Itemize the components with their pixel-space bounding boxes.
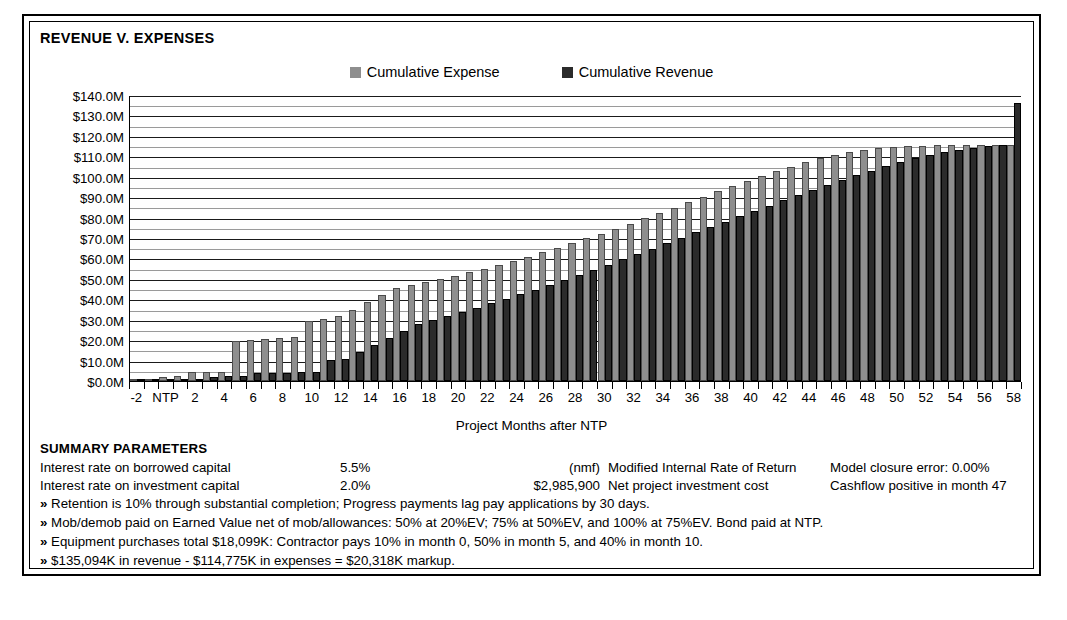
bar-cumulative-revenue[interactable] (181, 379, 188, 381)
bar-cumulative-revenue[interactable] (619, 259, 626, 381)
bar-group[interactable] (378, 96, 393, 381)
bar-cumulative-revenue[interactable] (210, 377, 217, 381)
bar-group[interactable] (364, 96, 379, 381)
bar-cumulative-expense[interactable] (393, 288, 400, 381)
bar-cumulative-expense[interactable] (437, 279, 444, 381)
bar-cumulative-revenue[interactable] (853, 175, 860, 381)
bar-cumulative-expense[interactable] (539, 252, 546, 381)
bar-cumulative-revenue[interactable] (473, 308, 480, 382)
bar-cumulative-revenue[interactable] (546, 285, 553, 381)
bar-cumulative-expense[interactable] (422, 282, 429, 381)
bar-group[interactable] (247, 96, 262, 381)
bar-cumulative-revenue[interactable] (167, 379, 174, 381)
bar-cumulative-expense[interactable] (232, 341, 239, 381)
bar-cumulative-expense[interactable] (554, 248, 561, 381)
bar-group[interactable] (320, 96, 335, 381)
bar-cumulative-revenue[interactable] (356, 352, 363, 381)
bar-cumulative-expense[interactable] (904, 146, 911, 381)
bar-cumulative-expense[interactable] (481, 269, 488, 381)
bar-cumulative-expense[interactable] (846, 152, 853, 381)
bar-group[interactable] (890, 96, 905, 381)
bar-cumulative-revenue[interactable] (663, 243, 670, 381)
bar-group[interactable] (656, 96, 671, 381)
bar-cumulative-revenue[interactable] (561, 280, 568, 381)
bar-group[interactable] (598, 96, 613, 381)
bar-cumulative-expense[interactable] (568, 243, 575, 381)
bar-cumulative-expense[interactable] (524, 257, 531, 381)
bar-cumulative-expense[interactable] (291, 337, 298, 381)
bar-group[interactable] (276, 96, 291, 381)
bar-group[interactable] (335, 96, 350, 381)
bar-cumulative-revenue[interactable] (488, 303, 495, 381)
bar-group[interactable] (992, 96, 1007, 381)
bar-group[interactable] (524, 96, 539, 381)
bar-cumulative-revenue[interactable] (137, 379, 144, 381)
bar-cumulative-expense[interactable] (598, 234, 605, 381)
bar-cumulative-revenue[interactable] (342, 359, 349, 381)
bar-cumulative-revenue[interactable] (941, 152, 948, 381)
bar-group[interactable] (641, 96, 656, 381)
bar-cumulative-expense[interactable] (583, 238, 590, 381)
bar-group[interactable] (860, 96, 875, 381)
bar-group[interactable] (934, 96, 949, 381)
bar-cumulative-revenue[interactable] (532, 290, 539, 381)
bar-group[interactable] (495, 96, 510, 381)
bar-group[interactable] (948, 96, 963, 381)
bar-cumulative-revenue[interactable] (649, 249, 656, 381)
bar-cumulative-expense[interactable] (159, 377, 166, 381)
bar-cumulative-expense[interactable] (451, 276, 458, 381)
bar-group[interactable] (466, 96, 481, 381)
bar-cumulative-revenue[interactable] (313, 372, 320, 381)
bar-group[interactable] (408, 96, 423, 381)
bar-cumulative-expense[interactable] (349, 310, 356, 381)
bar-cumulative-expense[interactable] (817, 158, 824, 381)
bar-cumulative-revenue[interactable] (225, 376, 232, 381)
bar-cumulative-revenue[interactable] (298, 372, 305, 381)
bar-cumulative-expense[interactable] (130, 379, 137, 381)
bar-cumulative-expense[interactable] (963, 145, 970, 381)
bar-cumulative-revenue[interactable] (240, 376, 247, 381)
bar-cumulative-expense[interactable] (744, 181, 751, 381)
bar-cumulative-revenue[interactable] (196, 379, 203, 381)
bar-group[interactable] (612, 96, 627, 381)
bar-cumulative-expense[interactable] (378, 295, 385, 381)
bar-cumulative-revenue[interactable] (152, 379, 159, 381)
bar-group[interactable] (188, 96, 203, 381)
bar-cumulative-expense[interactable] (729, 186, 736, 381)
bar-group[interactable] (729, 96, 744, 381)
bar-group[interactable] (305, 96, 320, 381)
bar-cumulative-revenue[interactable] (444, 316, 451, 381)
bar-cumulative-expense[interactable] (276, 338, 283, 381)
bar-group[interactable] (554, 96, 569, 381)
bar-group[interactable] (583, 96, 598, 381)
bar-cumulative-revenue[interactable] (327, 360, 334, 381)
bar-cumulative-expense[interactable] (1007, 145, 1014, 381)
bar-cumulative-expense[interactable] (919, 146, 926, 381)
bar-group[interactable] (568, 96, 583, 381)
bar-cumulative-revenue[interactable] (722, 222, 729, 381)
bar-cumulative-revenue[interactable] (985, 146, 992, 381)
bar-cumulative-revenue[interactable] (634, 254, 641, 381)
bar-group[interactable] (349, 96, 364, 381)
bar-cumulative-revenue[interactable] (576, 275, 583, 381)
bar-cumulative-revenue[interactable] (400, 331, 407, 381)
bar-group[interactable] (451, 96, 466, 381)
bar-cumulative-revenue[interactable] (269, 373, 276, 381)
bar-cumulative-revenue[interactable] (429, 320, 436, 381)
bar-cumulative-expense[interactable] (495, 265, 502, 381)
bar-cumulative-expense[interactable] (948, 145, 955, 381)
bar-cumulative-expense[interactable] (627, 224, 634, 381)
bar-group[interactable] (627, 96, 642, 381)
bar-cumulative-revenue[interactable] (707, 227, 714, 381)
bar-cumulative-expense[interactable] (612, 229, 619, 381)
bar-cumulative-expense[interactable] (320, 319, 327, 381)
bar-cumulative-expense[interactable] (890, 147, 897, 381)
bar-cumulative-revenue[interactable] (736, 216, 743, 381)
bar-cumulative-revenue[interactable] (839, 180, 846, 381)
bar-group[interactable] (393, 96, 408, 381)
bar-group[interactable] (773, 96, 788, 381)
bar-cumulative-revenue[interactable] (970, 148, 977, 381)
bar-cumulative-expense[interactable] (992, 145, 999, 381)
bar-cumulative-revenue[interactable] (780, 200, 787, 381)
bar-cumulative-revenue[interactable] (590, 270, 597, 381)
